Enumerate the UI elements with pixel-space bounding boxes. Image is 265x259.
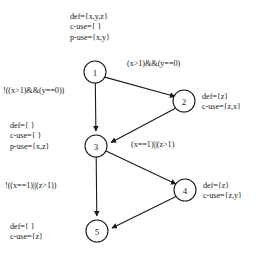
node-3-p-use: p-use={x,z} — [10, 142, 49, 152]
edge-1-to-2 — [105, 77, 175, 96]
edge-2-to-3 — [111, 109, 175, 143]
edge-2-to-3-label: (x==1)||(z>1) — [131, 140, 174, 150]
node-1-p-use: p-use={x,y} — [70, 33, 110, 43]
node-3-def: def={ } — [10, 121, 49, 131]
node-5-def: def={ } — [10, 222, 43, 232]
node-3-annotation: def={ } c-use={ } p-use={x,z} — [10, 121, 49, 152]
node-4-c-use: c-use={z,y} — [203, 191, 242, 201]
cfg-diagram-canvas: 1 2 3 4 5 def={x,y,z} c-use={ } p-use={x… — [0, 0, 265, 259]
node-5-annotation: def={ } c-use={z} — [10, 222, 43, 243]
node-4-annotation: def={z} c-use={z,y} — [203, 181, 242, 202]
edge-1-to-3 — [95, 83, 96, 131]
node-1-c-use: c-use={ } — [70, 22, 110, 32]
node-1-label: 1 — [93, 68, 98, 78]
node-5-c-use: c-use={z} — [10, 232, 43, 242]
node-3-label: 3 — [94, 142, 99, 152]
node-4-def: def={z} — [203, 181, 242, 191]
node-2-def: def={z} — [202, 92, 241, 102]
node-1-annotation: def={x,y,z} c-use={ } p-use={x,y} — [70, 12, 110, 43]
edge-3-to-4 — [106, 151, 176, 184]
node-4-label: 4 — [183, 186, 188, 196]
node-2-annotation: def={z} c-use={z,x} — [202, 92, 241, 113]
edge-1-to-3-label: !((x>1)&&(y==0)) — [3, 86, 64, 96]
edge-1-to-2-label: (x>1)&&(y==0) — [127, 59, 180, 69]
edge-3-to-5 — [96, 157, 97, 216]
node-1-def: def={x,y,z} — [70, 12, 110, 22]
node-3-c-use: c-use={ } — [10, 131, 49, 141]
edge-4-to-5 — [112, 197, 176, 229]
node-2-label: 2 — [182, 97, 187, 107]
edge-3-to-5-label: !((x==1)||(z>1)) — [5, 181, 56, 191]
node-2-c-use: c-use={z,x} — [202, 102, 241, 112]
node-5-label: 5 — [95, 227, 100, 237]
